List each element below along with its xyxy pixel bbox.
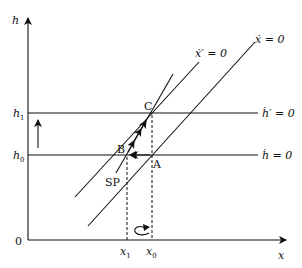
point-a-label: A	[152, 158, 162, 171]
y-axis-label: h	[12, 14, 19, 27]
h0-tick-label: h0	[13, 149, 25, 164]
xdot-label: ẋ = 0	[255, 33, 284, 46]
point-c-label: C	[144, 100, 152, 113]
h1-tick-label: h1	[13, 107, 25, 122]
b-to-c-arrow-1	[128, 141, 134, 152]
hdot-label: ḣ = 0	[262, 148, 292, 162]
xdot-prime-label: ẋ′ = 0	[195, 47, 227, 60]
x0-tick-label: x0	[146, 245, 157, 260]
b-to-c-arrow-2	[134, 129, 141, 141]
point-b-label: B	[117, 143, 125, 156]
x-axis-label: x	[278, 249, 285, 262]
hdot-prime-label: ḣ′ = 0	[262, 106, 295, 120]
phase-diagram: h x 0 h1 h0 ḣ′ = 0 ḣ = 0 ẋ = 0 ẋ′ = 0 x1…	[0, 0, 302, 268]
x1-tick-label: x1	[120, 245, 131, 260]
saddle-path-label: SP	[105, 176, 121, 189]
origin-label: 0	[15, 235, 22, 248]
xdot-prime-zero-line	[75, 62, 199, 197]
xdot-zero-line	[88, 42, 255, 226]
a-to-b-arrowhead	[129, 151, 136, 159]
